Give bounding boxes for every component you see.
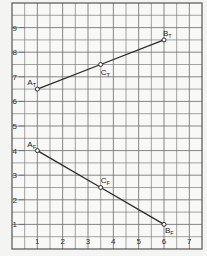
x-tick-label: 3: [86, 237, 91, 246]
y-tick-label: 4: [13, 147, 18, 156]
y-tick-label: 7: [13, 73, 18, 82]
y-tick-label: 9: [13, 24, 18, 33]
y-tick-label: 6: [13, 97, 18, 106]
y-tick-label: 5: [13, 122, 18, 131]
y-tick-label: 3: [13, 171, 18, 180]
y-tick-label: 2: [13, 196, 18, 205]
grid-lines: [12, 3, 202, 249]
x-tick-label: 5: [136, 237, 141, 246]
x-tick-label: 7: [187, 237, 192, 246]
x-tick-label: 1: [35, 237, 40, 246]
y-tick-label: 1: [13, 220, 18, 229]
data-point-marker: [99, 63, 103, 67]
x-tick-label: 6: [162, 237, 167, 246]
data-point-marker: [99, 186, 103, 190]
x-tick-label: 2: [60, 237, 65, 246]
x-tick-label: 4: [111, 237, 116, 246]
y-tick-label: 8: [13, 48, 18, 57]
graph-paper-chart: 1234567 123456789 ATCTBTAFCFBF: [0, 0, 207, 256]
data-point-marker: [162, 38, 166, 42]
